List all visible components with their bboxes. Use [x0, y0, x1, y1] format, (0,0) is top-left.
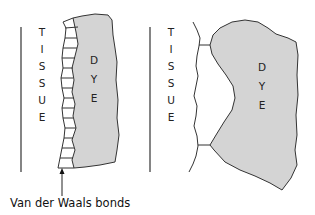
right-dye-letter: E — [255, 98, 269, 113]
right-dye-shape — [210, 20, 298, 190]
right-tissue-letter: T — [164, 25, 178, 40]
left-dye-letter: E — [87, 91, 101, 106]
left-tissue-letter: S — [35, 76, 49, 91]
left-tissue-letter: S — [35, 59, 49, 74]
left-tissue-letter: I — [35, 42, 49, 57]
right-tissue-letter: E — [164, 110, 178, 125]
left-bond-strip-top — [63, 18, 73, 22]
left-tissue-surface — [58, 22, 66, 168]
right-dye-letter: D — [255, 60, 269, 75]
left-dye-letter: Y — [87, 72, 101, 87]
right-tissue-letter: S — [164, 59, 178, 74]
annotation-arrow-head-icon — [60, 168, 65, 174]
left-tissue-letter: T — [35, 25, 49, 40]
right-tissue-letter: S — [164, 76, 178, 91]
right-tissue-surface — [189, 22, 200, 172]
right-dye-letter: Y — [255, 79, 269, 94]
right-tissue-letter: I — [164, 42, 178, 57]
left-tissue-letter: E — [35, 110, 49, 125]
left-tissue-letter: U — [35, 93, 49, 108]
left-dye-letter: D — [87, 53, 101, 68]
van-der-waals-label: Van der Waals bonds — [10, 196, 130, 210]
right-tissue-letter: U — [164, 93, 178, 108]
